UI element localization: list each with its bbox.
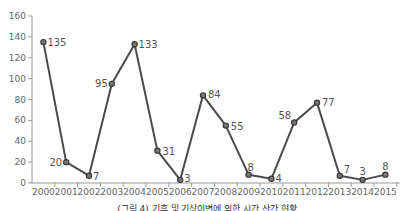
data-label: 31 <box>162 146 175 157</box>
data-label: 55 <box>231 121 244 132</box>
data-label: 4 <box>275 173 281 184</box>
x-tick-label: 2002 <box>78 187 101 197</box>
data-point-marker <box>223 123 228 128</box>
y-tick-label: 80 <box>15 95 27 105</box>
y-tick-label: 140 <box>9 32 26 42</box>
data-point-marker <box>132 42 137 47</box>
y-tick-label: 100 <box>9 74 26 84</box>
data-label: 8 <box>382 161 388 172</box>
x-tick-label: 2006 <box>169 187 192 197</box>
data-label: 7 <box>93 171 99 182</box>
data-label: 7 <box>344 164 350 175</box>
x-tick-label: 2011 <box>283 187 306 197</box>
x-tick-label: 2001 <box>55 187 78 197</box>
data-label: 133 <box>139 39 158 50</box>
y-tick-label: 40 <box>15 136 27 146</box>
y-axis: 020406080100120140160 <box>9 11 32 188</box>
data-label: 84 <box>208 89 221 100</box>
data-point-marker <box>292 120 297 125</box>
x-tick-label: 2013 <box>328 187 351 197</box>
figure-caption: (그림 4) 기후 및 기상이변에 의한 시간 산간 현황 <box>0 202 414 211</box>
data-point-marker <box>200 93 205 98</box>
data-label: 77 <box>322 97 335 108</box>
data-point-marker <box>178 177 183 182</box>
data-point-marker <box>337 173 342 178</box>
y-tick-label: 60 <box>15 115 27 125</box>
data-labels: 135207951333138455845877738 <box>47 37 388 184</box>
data-point-marker <box>86 173 91 178</box>
data-series <box>41 39 388 182</box>
data-point-marker <box>246 172 251 177</box>
data-point-marker <box>109 81 114 86</box>
data-point-marker <box>383 172 388 177</box>
y-tick-label: 120 <box>9 53 26 63</box>
data-point-marker <box>360 177 365 182</box>
line-chart: 020406080100120140160 200020012002200320… <box>0 0 414 211</box>
x-tick-label: 2008 <box>214 187 237 197</box>
y-tick-label: 160 <box>9 11 26 21</box>
data-label: 58 <box>278 110 291 121</box>
x-tick-label: 2010 <box>260 187 283 197</box>
data-label: 3 <box>184 173 190 184</box>
x-tick-label: 2003 <box>100 187 123 197</box>
x-tick-label: 2005 <box>146 187 169 197</box>
data-point-marker <box>41 39 46 44</box>
x-tick-label: 2000 <box>32 187 55 197</box>
data-label: 8 <box>248 162 254 173</box>
data-point-marker <box>314 100 319 105</box>
data-point-marker <box>64 160 69 165</box>
x-tick-label: 2009 <box>237 187 260 197</box>
y-tick-label: 0 <box>20 178 26 188</box>
data-label: 95 <box>95 78 108 89</box>
x-tick-label: 2015 <box>374 187 397 197</box>
data-point-marker <box>155 148 160 153</box>
data-point-marker <box>269 176 274 181</box>
data-label: 3 <box>359 166 365 177</box>
data-label: 135 <box>47 37 66 48</box>
x-tick-label: 2004 <box>123 187 146 197</box>
x-tick-label: 2014 <box>351 187 374 197</box>
x-tick-label: 2007 <box>192 187 215 197</box>
y-tick-label: 20 <box>15 157 27 167</box>
x-tick-label: 2012 <box>306 187 329 197</box>
x-axis: 2000200120022003200420052006200720082009… <box>32 183 400 197</box>
data-label: 20 <box>49 157 62 168</box>
